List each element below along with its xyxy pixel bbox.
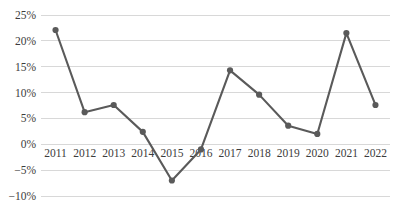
x-tick-label: 2013: [102, 147, 125, 159]
data-point-marker: [256, 92, 262, 98]
y-tick-label: 15%: [15, 61, 37, 73]
data-point-marker: [314, 131, 320, 137]
x-tick-label: 2015: [160, 147, 183, 159]
y-axis-tick-labels: 25%20%15%10%5%0%−5%−10%: [8, 9, 36, 202]
x-tick-label: 2022: [364, 147, 387, 159]
x-tick-label: 2012: [73, 147, 96, 159]
data-point-marker: [343, 30, 349, 36]
x-tick-label: 2021: [335, 147, 358, 159]
data-point-marker: [52, 27, 58, 33]
y-tick-label: 10%: [15, 87, 37, 99]
data-point-marker: [169, 177, 175, 183]
y-tick-label: 20%: [15, 35, 37, 47]
data-point-marker: [82, 109, 88, 115]
y-tick-label: 0%: [21, 138, 37, 150]
x-tick-label: 2011: [44, 147, 67, 159]
x-tick-label: 2017: [219, 147, 242, 159]
data-point-marker: [198, 146, 204, 152]
y-tick-label: 5%: [21, 112, 37, 124]
gridlines: [41, 15, 390, 196]
y-tick-label: 25%: [15, 9, 37, 21]
y-tick-label: −5%: [14, 164, 36, 176]
y-tick-label: −10%: [8, 190, 36, 202]
data-point-marker: [372, 102, 378, 108]
x-tick-label: 2020: [306, 147, 329, 159]
line-chart: 25%20%15%10%5%0%−5%−10% 2011201220132014…: [0, 0, 396, 205]
x-tick-label: 2019: [277, 147, 300, 159]
data-point-marker: [285, 123, 291, 129]
x-tick-label: 2014: [131, 147, 154, 159]
x-tick-label: 2018: [248, 147, 271, 159]
data-point-marker: [140, 129, 146, 135]
chart-canvas: 25%20%15%10%5%0%−5%−10% 2011201220132014…: [0, 0, 396, 205]
data-point-marker: [227, 67, 233, 73]
data-point-marker: [111, 102, 117, 108]
data-point-markers: [52, 27, 378, 184]
x-axis-tick-labels: 2011201220132014201520162017201820192020…: [44, 147, 387, 159]
